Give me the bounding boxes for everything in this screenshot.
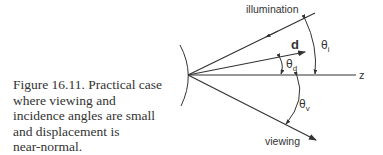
illumination-arrow <box>266 31 278 37</box>
theta-i-label: θi <box>321 38 330 54</box>
theta-d-subscript: d <box>293 64 297 73</box>
theta-d-arc <box>280 58 282 74</box>
angle-diagram: illumination d θi θd z θv viewing <box>0 0 383 155</box>
viewing-label: viewing <box>265 135 300 147</box>
illumination-label: illumination <box>246 3 299 15</box>
d-label: d <box>291 37 299 52</box>
theta-i-subscript: i <box>328 45 330 54</box>
theta-v-arc <box>286 76 300 124</box>
theta-v-label: θv <box>299 97 310 113</box>
theta-v-subscript: v <box>306 104 310 113</box>
theta-i-arc <box>305 19 316 74</box>
surface-curve <box>180 45 188 106</box>
z-label: z <box>359 69 365 81</box>
theta-d-label: θd <box>286 57 297 73</box>
